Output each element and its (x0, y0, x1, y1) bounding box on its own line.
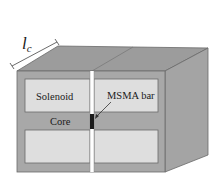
solenoid-label: Solenoid (36, 91, 74, 102)
msma-bar-label: MSMA bar (107, 90, 155, 101)
solenoid-window-lower-right (94, 130, 158, 163)
lc-label: lc (22, 34, 32, 54)
solenoid-window-lower-left (25, 130, 90, 163)
lc-tick-end (55, 39, 59, 45)
lc-tick-start (10, 63, 14, 69)
lc-subscript: c (27, 42, 32, 54)
core-label: Core (50, 116, 71, 127)
msma-bar (90, 114, 94, 129)
msma-core-diagram: lc Solenoid MSMA bar Core (0, 0, 216, 182)
